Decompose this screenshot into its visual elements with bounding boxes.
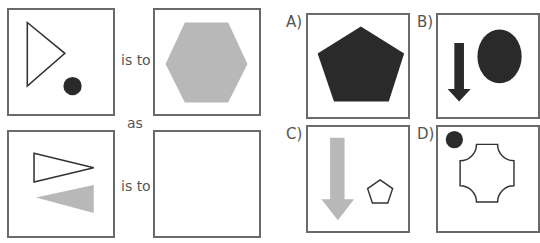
- option-d-panel[interactable]: [436, 125, 540, 233]
- two-triangles-figure: [9, 132, 113, 236]
- arrow-and-pentagon-figure: [308, 127, 408, 231]
- connector-as: as: [127, 115, 143, 131]
- gray-triangle-shape: [36, 185, 94, 213]
- circle-and-cross-figure: [438, 127, 538, 231]
- triangle-and-circle-figure: [9, 10, 113, 114]
- hexagon-figure: [155, 10, 259, 114]
- gray-hexagon-shape: [166, 23, 248, 103]
- connector-is-to-2: is to: [121, 178, 151, 194]
- premise-panel-1: [7, 8, 115, 116]
- option-c-panel[interactable]: [306, 125, 410, 233]
- pentagon-figure: [308, 15, 408, 117]
- answer-panel-empty: [153, 130, 261, 238]
- premise-panel-2: [153, 8, 261, 116]
- dark-oval-shape: [477, 29, 521, 83]
- outlined-triangle-shape: [34, 153, 94, 182]
- connector-is-to-1: is to: [121, 52, 151, 68]
- dark-pentagon-shape: [318, 27, 405, 102]
- query-panel: [7, 130, 115, 238]
- option-b-panel[interactable]: [436, 13, 540, 119]
- option-c-label: C): [286, 125, 302, 143]
- option-b-label: B): [417, 13, 433, 31]
- outlined-concave-cross-shape: [460, 144, 514, 202]
- option-a-panel[interactable]: [306, 13, 410, 119]
- dark-circle-shape: [63, 77, 81, 95]
- outlined-triangle-shape: [27, 23, 65, 87]
- arrow-and-oval-figure: [438, 15, 538, 117]
- dark-down-arrow-shape: [448, 43, 471, 102]
- gray-down-arrow-shape: [321, 138, 354, 221]
- option-a-label: A): [286, 13, 302, 31]
- outlined-pentagon-shape: [368, 180, 393, 203]
- dark-circle-shape: [446, 131, 463, 148]
- option-d-label: D): [417, 125, 434, 143]
